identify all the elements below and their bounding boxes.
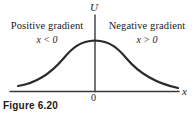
annotation-positive-gradient-condition: x < 0 [6, 35, 88, 45]
annotation-positive-gradient-title: Positive gradient [6, 21, 88, 32]
origin-label: 0 [91, 93, 96, 103]
curve-path [18, 41, 178, 89]
annotation-negative-gradient-title: Negative gradient [104, 21, 190, 32]
x-axis-label: x [182, 86, 187, 97]
annotation-negative-gradient-condition: x > 0 [104, 35, 190, 45]
plot-area [0, 0, 195, 100]
potential-energy-curve-chart [0, 0, 195, 100]
y-axis-label: U [90, 2, 98, 13]
annotation-positive-gradient: Positive gradient x < 0 [6, 21, 88, 45]
annotation-negative-gradient: Negative gradient x > 0 [104, 21, 190, 45]
figure-caption: Figure 6.20 [3, 100, 58, 111]
figure-container: U x 0 Positive gradient x < 0 Negative g… [0, 0, 195, 116]
